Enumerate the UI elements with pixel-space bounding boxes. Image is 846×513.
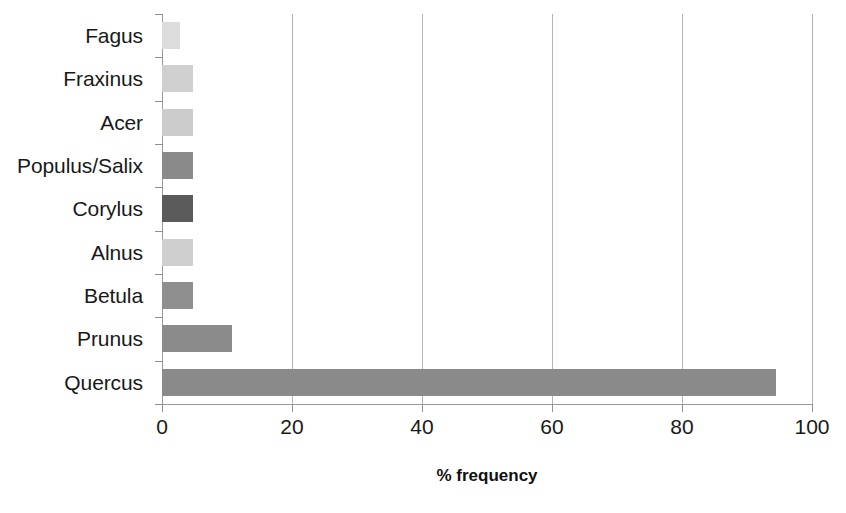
bar <box>162 65 193 92</box>
x-axis-tick-label: 20 <box>280 415 303 439</box>
clipped-caption <box>0 504 420 513</box>
y-axis-category-label-text: Corylus <box>73 198 143 219</box>
bar-chart: FagusFraxinusAcerPopulus/SalixCorylusAln… <box>0 0 846 513</box>
x-axis-tick-label: 0 <box>156 415 168 439</box>
y-axis-tick <box>155 404 163 405</box>
y-axis-tick <box>155 187 163 188</box>
bar <box>162 109 193 136</box>
x-axis-tick-label: 80 <box>670 415 693 439</box>
y-axis-tick <box>155 317 163 318</box>
bar <box>162 239 193 266</box>
gridline <box>812 14 813 404</box>
y-axis-category-label-text: Fagus <box>85 25 143 46</box>
y-axis-tick <box>155 14 163 15</box>
y-axis-category-label-text: Acer <box>100 112 143 133</box>
y-axis-tick <box>155 101 163 102</box>
x-axis-tick <box>682 404 683 412</box>
y-axis-category-label-text: Betula <box>84 285 143 306</box>
x-axis-tick-labels: 020406080100 <box>162 415 812 445</box>
bar <box>162 369 776 396</box>
y-axis-category-label-text: Quercus <box>64 372 143 393</box>
y-axis-category-label: Acer <box>0 101 152 144</box>
y-axis-category-labels: FagusFraxinusAcerPopulus/SalixCorylusAln… <box>0 14 152 404</box>
x-axis-tick <box>292 404 293 412</box>
x-axis-tick <box>812 404 813 412</box>
bar-row <box>162 187 812 230</box>
y-axis-category-label: Alnus <box>0 231 152 274</box>
x-axis-ticks <box>162 404 812 412</box>
bar-row <box>162 57 812 100</box>
x-axis-tick-label: 60 <box>540 415 563 439</box>
bar-row <box>162 14 812 57</box>
bar-row <box>162 144 812 187</box>
bar-row <box>162 274 812 317</box>
y-axis-tick <box>155 361 163 362</box>
plot-area <box>162 14 812 404</box>
y-axis-tick <box>155 57 163 58</box>
bar <box>162 325 232 352</box>
y-axis-category-label-text: Prunus <box>77 328 143 349</box>
x-axis-tick-label: 40 <box>410 415 433 439</box>
x-axis-tick-label: 100 <box>794 415 829 439</box>
y-axis-tick <box>155 274 163 275</box>
x-axis-tick <box>552 404 553 412</box>
bar <box>162 152 193 179</box>
y-axis-category-label-text: Alnus <box>91 242 143 263</box>
x-axis-tick <box>162 404 163 412</box>
y-axis-category-label: Populus/Salix <box>0 144 152 187</box>
bar-row <box>162 361 812 404</box>
bar <box>162 22 180 49</box>
bar-series <box>162 14 812 404</box>
y-axis-category-label: Betula <box>0 274 152 317</box>
bar-row <box>162 317 812 360</box>
bar-row <box>162 101 812 144</box>
y-axis-category-label: Fagus <box>0 14 152 57</box>
y-axis-category-label: Fraxinus <box>0 57 152 100</box>
y-axis-category-label-text: Fraxinus <box>63 68 143 89</box>
bar-row <box>162 231 812 274</box>
y-axis-category-label: Prunus <box>0 317 152 360</box>
y-axis-tick <box>155 231 163 232</box>
bar <box>162 282 193 309</box>
y-axis-category-label: Corylus <box>0 187 152 230</box>
y-axis-category-label: Quercus <box>0 361 152 404</box>
x-axis-title: % frequency <box>162 466 812 486</box>
y-axis-category-label-text: Populus/Salix <box>17 155 143 176</box>
y-axis-tick <box>155 144 163 145</box>
bar <box>162 195 193 222</box>
x-axis-tick <box>422 404 423 412</box>
